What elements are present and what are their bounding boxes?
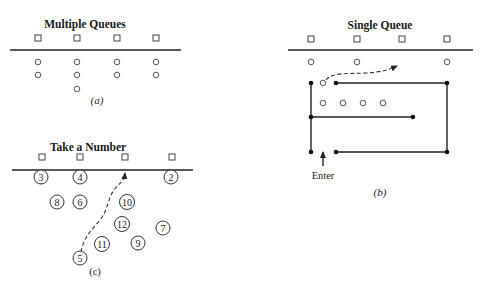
server-icon [74, 35, 80, 41]
svg-text:12: 12 [117, 219, 127, 230]
stanchion-post-icon [309, 150, 314, 155]
stanchion-post-icon [309, 115, 314, 120]
customer-icon [114, 59, 120, 65]
next-customer-path-arrow-icon [326, 66, 397, 80]
customer-icon [35, 72, 41, 78]
server-icon [122, 154, 128, 160]
ticket-5: 5 [73, 251, 87, 265]
server-icon [114, 35, 120, 41]
server-icon [399, 36, 405, 42]
panel-a-servers [35, 35, 159, 41]
svg-text:6: 6 [78, 197, 83, 208]
stanchion-post-icon [411, 115, 416, 120]
ticket-3: 3 [34, 170, 48, 184]
customer-icon [380, 100, 386, 106]
panel-multiple-queues: Multiple Queues (a) [10, 18, 181, 107]
stanchion-post-icon [445, 150, 450, 155]
panel-a-caption: (a) [91, 94, 104, 107]
server-icon [153, 35, 159, 41]
svg-text:4: 4 [78, 172, 83, 183]
ticket-2: 2 [164, 170, 178, 184]
ticket-10: 10 [120, 195, 135, 210]
ticket-7: 7 [156, 221, 170, 235]
server-icon [354, 36, 360, 42]
ticket-8: 8 [50, 195, 64, 209]
panel-a-title: Multiple Queues [44, 18, 126, 31]
enter-label: Enter [312, 170, 335, 181]
panel-b-title: Single Queue [348, 19, 413, 32]
customer-icon [320, 80, 326, 86]
ticket-6: 6 [73, 195, 87, 209]
customer-icon [153, 72, 159, 78]
svg-text:5: 5 [78, 253, 83, 264]
stanchion-post-icon [445, 81, 450, 86]
server-icon [77, 154, 83, 160]
svg-text:8: 8 [55, 197, 60, 208]
customer-icon [74, 59, 80, 65]
customer-icon [320, 100, 326, 106]
customer-icon [114, 72, 120, 78]
panel-b-waiting-customers [320, 80, 386, 106]
queue-diagram: Multiple Queues (a) Single Queue [0, 0, 480, 282]
stanchion-post-icon [334, 150, 339, 155]
panel-c-title: Take a Number [50, 141, 126, 153]
panel-c-caption: (c) [89, 266, 101, 278]
svg-text:11: 11 [97, 239, 107, 250]
server-icon [169, 154, 175, 160]
customer-icon [354, 59, 360, 65]
server-icon [444, 36, 450, 42]
ticket-9: 9 [131, 236, 145, 250]
ticket-12: 12 [115, 217, 130, 232]
panel-b-caption: (b) [374, 186, 387, 199]
customer-icon [340, 100, 346, 106]
stanchion-post-icon [334, 81, 339, 86]
customer-icon [360, 100, 366, 106]
customer-icon [35, 59, 41, 65]
panel-a-customers [35, 59, 159, 92]
svg-text:3: 3 [39, 172, 44, 183]
svg-text:7: 7 [161, 223, 166, 234]
customer-icon [153, 59, 159, 65]
queue-rope-barrier [309, 81, 450, 155]
panel-c-servers [39, 154, 175, 160]
server-icon [39, 154, 45, 160]
svg-text:10: 10 [122, 197, 132, 208]
server-icon [35, 35, 41, 41]
server-icon [308, 36, 314, 42]
svg-text:2: 2 [169, 172, 174, 183]
panel-single-queue: Single Queue [288, 19, 473, 199]
svg-text:9: 9 [136, 238, 141, 249]
ticket-11: 11 [95, 237, 110, 252]
customer-icon [74, 72, 80, 78]
customer-icon [444, 59, 450, 65]
panel-b-served-customers [308, 59, 450, 65]
stanchion-post-icon [309, 81, 314, 86]
ticket-4: 4 [73, 170, 87, 184]
panel-take-a-number: Take a Number 3 4 2 8 [12, 141, 193, 278]
panel-b-servers [308, 36, 450, 42]
customer-icon [74, 86, 80, 92]
panel-c-tickets: 3 4 2 8 6 10 1 [34, 170, 178, 265]
customer-icon [308, 59, 314, 65]
